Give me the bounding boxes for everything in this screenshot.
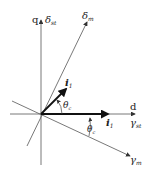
vector-diagram: q δst δm i1 θc d i1 γst θc γm [0, 0, 153, 176]
delta-st-label: δst [45, 14, 57, 26]
theta-upper-arc [57, 100, 62, 114]
i1-d-label: i1 [106, 117, 114, 129]
delta-m-axis [27, 22, 87, 146]
delta-m-label: δm [82, 10, 94, 22]
theta-upper-label: θc [63, 100, 71, 111]
gamma-m-label: γm [130, 154, 142, 166]
theta-lower-label: θc [87, 124, 95, 135]
d-label: d [130, 101, 137, 112]
q-label: q [32, 14, 39, 25]
i1-rotated-label: i1 [65, 77, 73, 89]
gamma-st-label: γst [130, 117, 142, 129]
